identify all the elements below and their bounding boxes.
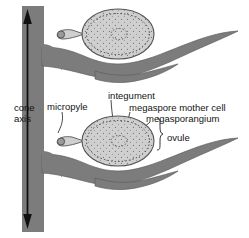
label-integument: integument bbox=[108, 90, 155, 101]
label-ovule: ovule bbox=[167, 132, 190, 143]
cone-ovule-diagram: cone axis micropyle integument megaspore… bbox=[0, 0, 249, 238]
leader-micropyle bbox=[58, 112, 63, 133]
label-cone-axis-line2: axis bbox=[14, 113, 31, 124]
label-cone-axis-line1: cone bbox=[14, 102, 35, 113]
label-megaspore-mother-cell: megaspore mother cell bbox=[129, 102, 226, 113]
label-micropyle: micropyle bbox=[47, 101, 88, 112]
diagram-canvas: cone axis micropyle integument megaspore… bbox=[0, 0, 249, 238]
micropyle-opening-upper bbox=[57, 31, 64, 38]
micropyle-opening-lower bbox=[57, 138, 64, 145]
label-megasporangium: megasporangium bbox=[146, 113, 219, 124]
